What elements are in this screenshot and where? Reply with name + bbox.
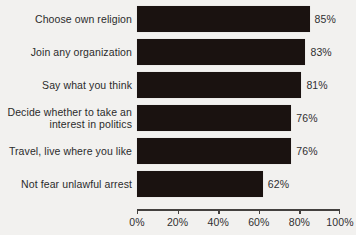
bar bbox=[137, 72, 301, 98]
x-axis-tick bbox=[137, 209, 138, 214]
x-axis-tick bbox=[178, 209, 179, 214]
bar-value-label: 85% bbox=[315, 13, 336, 25]
bar-value-label: 76% bbox=[296, 145, 317, 157]
bar-value-label: 83% bbox=[310, 46, 331, 58]
x-axis-tick bbox=[299, 209, 300, 214]
bar-value-label: 62% bbox=[268, 178, 289, 190]
horizontal-bar-chart: Choose own religion85%Join any organizat… bbox=[0, 0, 356, 235]
x-axis-tick-label: 40% bbox=[198, 216, 238, 228]
category-label: Choose own religion bbox=[0, 13, 132, 25]
x-axis-tick-label: 0% bbox=[117, 216, 157, 228]
category-label: Decide whether to take an interest in po… bbox=[0, 106, 132, 130]
x-axis-tick-label: 60% bbox=[239, 216, 279, 228]
bar-row: Join any organization83% bbox=[0, 39, 356, 65]
bar-value-label: 76% bbox=[296, 112, 317, 124]
bar-value-label: 81% bbox=[306, 79, 327, 91]
category-label: Travel, live where you like bbox=[0, 145, 132, 157]
x-axis-tick-label: 100% bbox=[320, 216, 356, 228]
category-label: Not fear unlawful arrest bbox=[0, 178, 132, 190]
bar-row: Travel, live where you like76% bbox=[0, 138, 356, 164]
bar-row: Say what you think81% bbox=[0, 72, 356, 98]
x-axis-tick bbox=[218, 209, 219, 214]
x-axis-tick bbox=[259, 209, 260, 214]
bar-row: Decide whether to take an interest in po… bbox=[0, 105, 356, 131]
x-axis-tick bbox=[339, 209, 340, 214]
x-axis-line bbox=[137, 209, 340, 211]
bar bbox=[137, 39, 305, 65]
x-axis-tick-label: 80% bbox=[279, 216, 319, 228]
bar bbox=[137, 6, 310, 32]
bar bbox=[137, 171, 263, 197]
category-label: Say what you think bbox=[0, 79, 132, 91]
bar bbox=[137, 105, 291, 131]
bar bbox=[137, 138, 291, 164]
bar-row: Not fear unlawful arrest62% bbox=[0, 171, 356, 197]
x-axis-tick-label: 20% bbox=[158, 216, 198, 228]
bar-row: Choose own religion85% bbox=[0, 6, 356, 32]
category-label: Join any organization bbox=[0, 46, 132, 58]
